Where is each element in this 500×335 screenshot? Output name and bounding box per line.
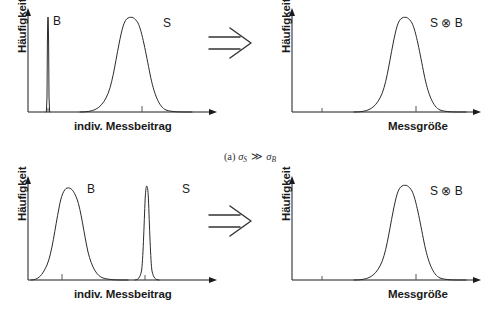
panel-a-caption-sigma-b-sub: B [272,155,277,164]
panel-a-right-chart-svg [266,2,498,132]
double-line-right-arrow-icon [207,202,255,244]
panel-b-right-plot: Häufigkeit Messgröße S ⊗ B [266,170,498,300]
panel-b-left-plot: Häufigkeit indiv. Messbeitrag B S [2,170,234,300]
panel-b-right-x-axis-label: Messgröße [388,289,448,301]
convolution-arrow-a [207,24,255,66]
curve-background-b [31,188,128,280]
x-axis-ticks [48,106,142,112]
panel-b-right-chart-svg [266,170,498,300]
x-axis-ticks [322,106,416,112]
panel-a-left-x-axis-label: indiv. Messbeitrag [74,121,172,133]
curve-signal-a [80,17,192,112]
curve-background-a [46,17,51,112]
curve-convolution-b [354,185,466,280]
panel-a-right-plot: Häufigkeit Messgröße S ⊗ B [266,2,498,132]
panel-a-left-plot: Häufigkeit indiv. Messbeitrag B S [2,2,234,132]
panel-b-right-y-axis-label: Häufigkeit [281,149,293,239]
panel-b-left-x-axis-label: indiv. Messbeitrag [74,289,172,301]
panel-b-label-signal: S [182,183,190,195]
panel-b-left-y-axis-label: Häufigkeit [17,149,29,239]
panel-b-left-chart-svg [2,170,234,300]
panel-b: Häufigkeit indiv. Messbeitrag B S [0,170,500,322]
panel-a-caption: (a) σS ≫ σB [0,150,500,164]
panel-b-label-background: B [87,183,95,195]
panel-a-right-y-axis-label: Häufigkeit [281,0,293,71]
panel-a-caption-relation: ≫ [250,151,264,162]
curve-convolution-a [354,17,466,112]
x-axis-ticks [62,274,145,280]
panel-a-label-background: B [53,15,61,27]
panel-a-caption-index: (a) [224,151,236,162]
double-line-right-arrow-icon [207,24,255,66]
x-axis-ticks [322,274,416,280]
panel-a-left-y-axis-label: Häufigkeit [17,0,29,71]
panel-a: Häufigkeit indiv. Messbeitrag B S [0,2,500,154]
panel-a-left-chart-svg [2,2,234,132]
convolution-figure: Häufigkeit indiv. Messbeitrag B S [0,0,500,335]
curve-signal-b [135,186,159,280]
panel-a-label-signal: S [163,17,171,29]
panel-a-label-convolution: S ⊗ B [430,17,463,29]
panel-a-right-x-axis-label: Messgröße [388,121,448,133]
panel-b-label-convolution: S ⊗ B [430,185,463,197]
convolution-arrow-b [207,202,255,244]
panel-a-caption-sigma-s-sub: S [243,155,247,164]
